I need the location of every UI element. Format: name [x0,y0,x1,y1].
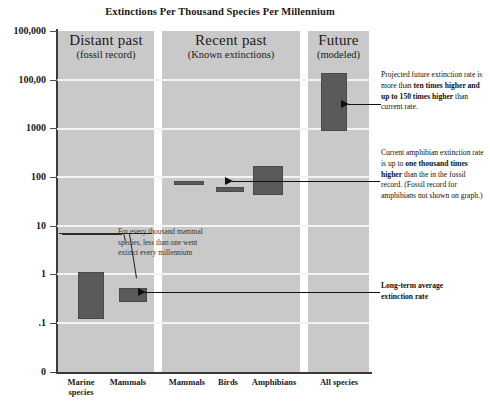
y-tick-mark [50,80,57,81]
y-tick-label-100000: 100,000 [14,25,47,36]
x-label-mammals-distant: Mammals [104,378,152,388]
x-label-all-species: All species [310,378,368,388]
arrow-line-future [348,104,381,105]
plot-area: Distant past (fossil record) Recent past… [57,31,370,372]
y-tick-mark [50,274,57,275]
x-label-amphibians: Amphibians [246,378,302,388]
panel-future-header: Future (modeled) [308,33,369,60]
panel-distant-past: Distant past (fossil record) [58,31,154,372]
bar-mammals-recent [174,181,204,185]
y-tick-mark [50,226,57,227]
y-tick-label-10000: 100,00 [19,74,47,85]
annotation-longterm-line1: Long-term average [381,281,443,290]
gridline [57,176,370,178]
extinction-rate-chart: Extinctions Per Thousand Species Per Mil… [0,0,490,415]
panel-future-title: Future [308,33,369,49]
x-label-marine-species-line2: species [68,387,93,397]
x-label-mammals-recent: Mammals [163,378,211,388]
gridline [57,225,370,227]
bar-marine-species [78,272,104,319]
longterm-average-rule [62,233,122,235]
bar-birds-recent [216,187,244,192]
annotation-amphibian-bold2: higher [381,170,402,179]
gridline [57,322,370,324]
arrow-line-longterm [145,292,380,293]
chart-title: Extinctions Per Thousand Species Per Mil… [0,6,440,17]
annotation-amphibian-rate: Current amphibian extinction rate is up … [381,148,485,202]
annotation-amphibian-line6: not shown on graph.) [418,191,483,200]
annotation-amphibian-line1: Current amphibian [381,148,438,157]
panel-future-subtitle: (modeled) [308,49,369,60]
annotation-future-last: current rate. [381,102,418,111]
annotation-longterm-average: Long-term average extinction rate [381,281,485,303]
y-tick-label-0: 0 [41,366,46,377]
y-tick-mark [50,372,57,373]
annotation-amphibian-bold1: one thousand times [405,159,467,168]
arrow-head-amphibians [225,177,233,185]
panel-recent-past-title: Recent past [162,33,300,49]
annotation-future-projection: Projected future extinction rate is more… [381,70,485,113]
panel-distant-past-subtitle: (fossil record) [58,49,154,60]
x-axis-line [56,372,372,374]
y-tick-label-1: 1 [41,268,46,279]
y-tick-mark [50,31,57,32]
y-tick-label-1000: 1000 [26,122,46,133]
panel-distant-past-title: Distant past [58,33,154,49]
annotation-amphibian-tail: than the in the [402,170,447,179]
panel-distant-past-header: Distant past (fossil record) [58,33,154,60]
y-tick-label-point1: .1 [39,317,47,328]
x-label-marine-species: Marine species [60,378,102,398]
x-label-birds: Birds [212,378,244,388]
x-label-marine-species-line1: Marine [68,377,95,387]
arrow-line-amphibians [232,181,380,182]
panel-recent-past: Recent past (Known extinctions) [162,31,300,372]
annotation-future-bold3: 150 times higher [400,92,454,101]
annotation-longterm-line2: extinction rate [381,292,428,301]
y-tick-mark [50,128,57,129]
annotation-future-bold1: ten [413,81,423,90]
panel-recent-past-header: Recent past (Known extinctions) [162,33,300,60]
panel-recent-past-subtitle: (Known extinctions) [162,49,300,60]
arrow-head-future [341,100,349,108]
y-tick-mark [50,323,57,324]
y-tick-label-100: 100 [31,171,46,182]
y-tick-mark [50,177,57,178]
annotation-future-line1: Projected future extinction [381,70,462,79]
arrow-head-longterm [138,288,146,296]
annotation-future-tail: than [453,92,468,101]
y-tick-label-10: 10 [36,220,46,231]
